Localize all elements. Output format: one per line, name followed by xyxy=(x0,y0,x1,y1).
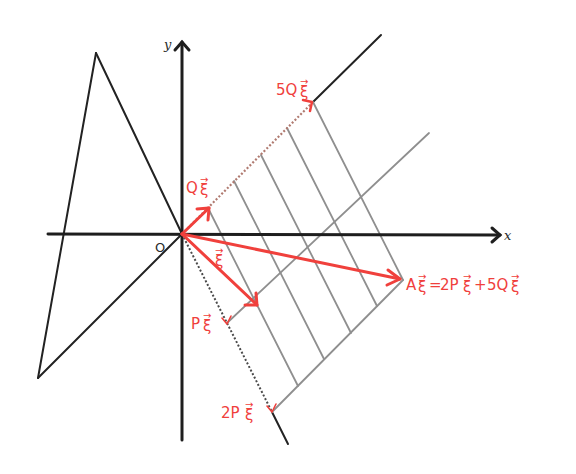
eigen-line-left-upper xyxy=(96,53,182,234)
grid-line-p-2 xyxy=(234,181,324,359)
q-vector xyxy=(182,208,209,234)
vector-diagram: y x O Q ξ → 5Q ξ → ξ → P ξ → 2P ξ → A ξ … xyxy=(0,0,576,474)
origin-label: O xyxy=(155,240,165,255)
x-axis xyxy=(48,234,500,235)
label-a-plus: + xyxy=(474,276,487,294)
label-a-term1-arrow: → xyxy=(463,271,471,282)
label-q-arrow: → xyxy=(200,174,208,185)
label-x-arrow: → xyxy=(215,245,223,256)
label-a-term2: 5Q xyxy=(487,276,508,294)
label-five-q: 5Q ξ → xyxy=(276,76,308,101)
label-two-p-text: 2P xyxy=(221,404,240,422)
label-two-p: 2P ξ → xyxy=(221,399,253,424)
label-five-q-arrow: → xyxy=(300,76,308,87)
label-q: Q ξ → xyxy=(186,174,208,199)
label-a-lhs: A xyxy=(406,276,417,294)
q-axis-line xyxy=(313,35,381,102)
label-p-arrow: → xyxy=(203,310,211,321)
p-axis-line xyxy=(272,412,288,444)
label-p-text: P xyxy=(191,315,200,333)
label-p: P ξ → xyxy=(191,310,211,335)
label-x: ξ → xyxy=(215,245,223,270)
label-two-p-arrow: → xyxy=(245,399,253,410)
label-a-term2-arrow: → xyxy=(511,271,519,282)
label-a-equation: A ξ → = 2P ξ → + 5Q ξ → xyxy=(406,271,519,296)
grid-line-p-4 xyxy=(287,128,377,306)
x-axis-label: x xyxy=(504,228,512,243)
label-a-term1: 2P xyxy=(440,276,459,294)
grid-line-p-3 xyxy=(261,155,351,333)
label-a-vec-arrow: → xyxy=(418,271,426,282)
grid-line-p-5 xyxy=(313,102,403,280)
label-five-q-text: 5Q xyxy=(276,81,297,99)
label-q-text: Q xyxy=(186,179,198,197)
five-q-arrowhead xyxy=(303,100,312,111)
grid-line-q-2 xyxy=(272,280,403,412)
y-axis-label: y xyxy=(163,37,172,52)
two-p-arrowhead xyxy=(267,404,276,412)
